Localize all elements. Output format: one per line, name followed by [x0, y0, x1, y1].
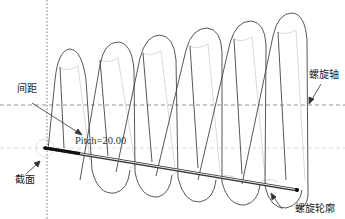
helix-hidden-lines: [36, 30, 305, 184]
helix-profile-label: 螺旋轮廓: [295, 204, 335, 214]
helix-outline: [48, 13, 308, 208]
profile-start-point: [43, 146, 47, 150]
profile-end-point: [295, 188, 299, 192]
helix-diagram: [0, 0, 345, 219]
section-label: 截面: [15, 175, 35, 185]
helix-axis-label: 螺旋轴: [309, 70, 339, 80]
pitch-label: 间距: [17, 84, 37, 94]
pitch-value-label: Pitch=20.00: [75, 136, 126, 147]
